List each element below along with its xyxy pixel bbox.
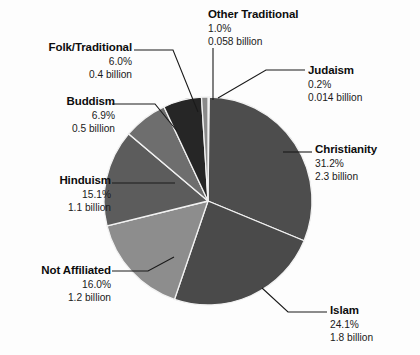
callout-title-judaism: Judaism <box>308 64 362 78</box>
callout-percent-not-affiliated: 16.0% <box>6 279 111 291</box>
pie-slices-group <box>104 97 312 305</box>
callout-title-hinduism: Hinduism <box>8 174 111 188</box>
callout-percent-buddism: 6.9% <box>10 110 115 122</box>
callout-amount-islam: 1.8 billion <box>330 332 373 344</box>
callout-judaism: Judaism 0.2% 0.014 billion <box>308 64 362 104</box>
callout-amount-buddism: 0.5 billion <box>10 123 115 135</box>
callout-islam: Islam 24.1% 1.8 billion <box>330 304 373 344</box>
pie-chart-figure: Other Traditional 1.0% 0.058 billion Fol… <box>0 0 420 355</box>
callout-not-affiliated: Not Affiliated 16.0% 1.2 billion <box>6 264 111 304</box>
callout-percent-islam: 24.1% <box>330 319 373 331</box>
callout-percent-folk-traditional: 6.0% <box>10 56 132 68</box>
callout-hinduism: Hinduism 15.1% 1.1 billion <box>8 174 111 214</box>
callout-other-traditional: Other Traditional 1.0% 0.058 billion <box>208 8 298 48</box>
callout-title-christianity: Christianity <box>315 143 377 157</box>
callout-percent-christianity: 31.2% <box>315 158 377 170</box>
callout-buddism: Buddism 6.9% 0.5 billion <box>10 95 115 135</box>
callout-title-islam: Islam <box>330 304 373 318</box>
leader-line-judaism <box>218 70 305 98</box>
callout-amount-hinduism: 1.1 billion <box>8 202 111 214</box>
callout-amount-folk-traditional: 0.4 billion <box>10 69 132 81</box>
callout-title-not-affiliated: Not Affiliated <box>6 264 111 278</box>
callout-christianity: Christianity 31.2% 2.3 billion <box>315 143 377 183</box>
callout-title-other-traditional: Other Traditional <box>208 8 298 22</box>
callout-amount-judaism: 0.014 billion <box>308 92 362 104</box>
callout-percent-judaism: 0.2% <box>308 79 362 91</box>
leader-line-islam <box>262 288 327 312</box>
callout-amount-other-traditional: 0.058 billion <box>208 36 298 48</box>
callout-amount-christianity: 2.3 billion <box>315 171 377 183</box>
callout-title-folk-traditional: Folk/Traditional <box>10 41 132 55</box>
callout-amount-not-affiliated: 1.2 billion <box>6 292 111 304</box>
callout-folk-traditional: Folk/Traditional 6.0% 0.4 billion <box>10 41 132 81</box>
callout-percent-other-traditional: 1.0% <box>208 23 298 35</box>
callout-title-buddism: Buddism <box>10 95 115 109</box>
callout-percent-hinduism: 15.1% <box>8 189 111 201</box>
